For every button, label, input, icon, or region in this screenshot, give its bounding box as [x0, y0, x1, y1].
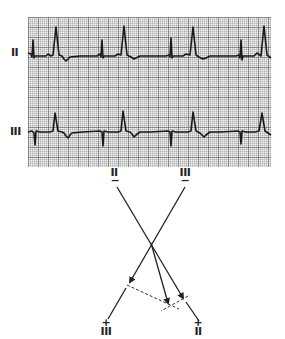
- lead-iii-axis-segment-lower: [108, 288, 126, 319]
- lead-ii-axis-line: [117, 187, 183, 298]
- axis-label-bottom-iii: III: [96, 325, 116, 338]
- ecg-and-axis-drawing: [0, 0, 285, 339]
- lead-iii-trace: [28, 111, 271, 146]
- lead-ii-trace: [28, 26, 271, 61]
- axis-polarity-top-iii: −: [179, 174, 191, 187]
- resultant-axis-arrow: [151, 243, 168, 303]
- projection-dashed-line-2: [161, 296, 188, 311]
- axis-label-bottom-ii: II: [188, 325, 208, 338]
- axis-polarity-top-ii: −: [109, 174, 121, 187]
- projection-dashed-line-1: [127, 285, 179, 309]
